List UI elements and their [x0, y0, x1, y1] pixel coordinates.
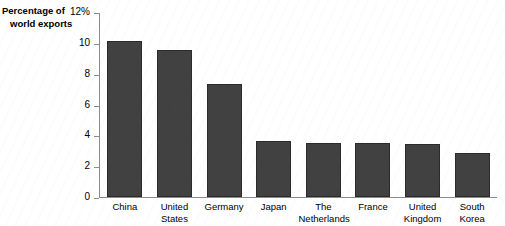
y-axis-tick-label: 8: [84, 68, 90, 79]
y-axis-title-line-2: world exports: [2, 18, 78, 31]
x-axis-label: Germany: [199, 201, 249, 213]
y-axis-tick-label: 6: [84, 99, 90, 110]
x-axis-label-line-2: Netherlands: [299, 213, 349, 225]
bar: [157, 50, 192, 197]
y-axis-tick-label: 4: [84, 129, 90, 140]
bar-slot: [306, 13, 341, 197]
x-axis-labels: ChinaUnitedStatesGermanyJapanTheNetherla…: [100, 201, 497, 226]
bar-slot: [355, 13, 390, 197]
x-axis-label: SouthKorea: [447, 201, 497, 224]
x-axis-label: Japan: [249, 201, 299, 213]
bar-slot: [256, 13, 291, 197]
y-axis-tick: 10: [94, 44, 99, 45]
bar-slot: [107, 13, 142, 197]
y-axis-tick: 4: [94, 136, 99, 137]
bar: [455, 153, 490, 197]
y-axis-tick: 8: [94, 75, 99, 76]
y-axis-tick: 6: [94, 106, 99, 107]
y-axis-tick-label: 10: [79, 37, 90, 48]
x-axis-label-line-1: United: [398, 201, 448, 213]
x-axis-label-line-1: China: [100, 201, 150, 213]
x-axis-label-line-1: Japan: [249, 201, 299, 213]
y-axis-tick-label: 0: [84, 191, 90, 202]
y-axis-tick: 12%: [94, 13, 99, 14]
y-axis-title: Percentage of world exports: [2, 5, 78, 30]
x-axis-label-line-1: Germany: [199, 201, 249, 213]
bar-slot: [207, 13, 242, 197]
y-axis-tick: 2: [94, 167, 99, 168]
bar: [306, 143, 341, 197]
x-axis-label: UnitedKingdom: [398, 201, 448, 224]
x-axis-line: [99, 197, 497, 198]
y-axis-title-line-1: Percentage of: [2, 5, 65, 16]
bar: [207, 84, 242, 197]
x-axis-label-line-2: States: [150, 213, 200, 225]
x-axis-label: China: [100, 201, 150, 213]
bar: [355, 143, 390, 197]
y-axis-tick-label: 12%: [70, 6, 90, 17]
y-axis-tick: 0: [94, 198, 99, 199]
bar-slot: [157, 13, 192, 197]
bar-series: [100, 13, 497, 197]
x-axis-label: TheNetherlands: [299, 201, 349, 224]
x-axis-label-line-2: Korea: [447, 213, 497, 225]
bar-slot: [405, 13, 440, 197]
x-axis-label-line-1: South: [447, 201, 497, 213]
bar-chart: Percentage of world exports 024681012% C…: [0, 0, 505, 226]
bar: [256, 141, 291, 197]
bar-slot: [455, 13, 490, 197]
x-axis-label: France: [348, 201, 398, 213]
bar: [405, 144, 440, 197]
x-axis-label-line-1: United: [150, 201, 200, 213]
y-axis-tick-label: 2: [84, 160, 90, 171]
plot-area: 024681012%: [99, 13, 497, 198]
x-axis-label-line-1: The: [299, 201, 349, 213]
bar: [107, 41, 142, 197]
x-axis-label: UnitedStates: [150, 201, 200, 224]
x-axis-label-line-1: France: [348, 201, 398, 213]
x-axis-label-line-2: Kingdom: [398, 213, 448, 225]
